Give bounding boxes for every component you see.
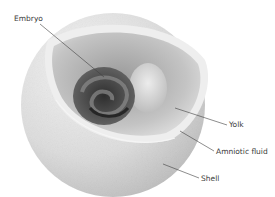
label-embryo: Embryo bbox=[14, 15, 43, 23]
label-yolk: Yolk bbox=[229, 121, 244, 129]
label-amniotic-fluid: Amniotic fluid bbox=[216, 148, 268, 156]
egg-illustration bbox=[0, 0, 275, 197]
embryo bbox=[73, 67, 135, 125]
yolk bbox=[129, 63, 167, 113]
label-shell: Shell bbox=[201, 175, 219, 183]
amniotic-egg-diagram: Embryo Yolk Amniotic fluid Shell bbox=[0, 0, 275, 197]
